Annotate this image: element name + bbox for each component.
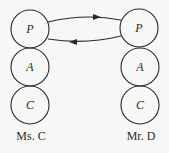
right-child-label: C	[136, 98, 145, 112]
arrowhead-left-icon	[69, 39, 77, 45]
transaction-arrows	[48, 14, 121, 45]
right-parent-label: P	[134, 21, 143, 35]
left-child-label: C	[26, 98, 35, 112]
right-person-name: Mr. D	[127, 129, 156, 143]
left-ego-stack: P A C Ms. C	[11, 10, 49, 143]
transaction-arrow-right	[48, 17, 121, 22]
left-parent-label: P	[25, 22, 34, 36]
transaction-diagram: P A C Ms. C P A C Mr. D	[0, 0, 169, 153]
left-adult-label: A	[25, 60, 34, 74]
right-adult-label: A	[135, 60, 144, 74]
transaction-arrow-left	[48, 36, 121, 41]
left-person-name: Ms. C	[16, 129, 45, 143]
right-ego-stack: P A C Mr. D	[120, 9, 159, 143]
arrowhead-right-icon	[93, 14, 101, 20]
